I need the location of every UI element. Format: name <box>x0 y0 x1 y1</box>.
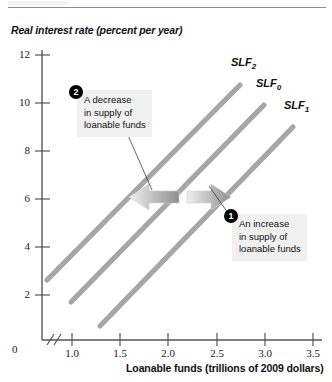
y-tick-label: 4 <box>6 240 30 252</box>
loanable-funds-figure: Real interest rate (percent per year) <box>0 0 332 382</box>
curve-label-slf2: SLF2 <box>231 56 256 71</box>
curve-label-slf1: SLF1 <box>284 99 309 114</box>
x-tick-label: 3.0 <box>245 347 285 359</box>
callout-increase-line3: loanable funds <box>239 243 301 256</box>
y-tick-label: 6 <box>6 192 30 204</box>
x-tick-label: 1.0 <box>52 347 92 359</box>
x-axis-title: Loanable funds (trillions of 2009 dollar… <box>126 362 324 374</box>
callout-decrease-badge: 2 <box>69 85 83 99</box>
x-tick-label: 2.0 <box>148 347 188 359</box>
chart-plot-area <box>0 0 332 382</box>
callout-decrease-line2: in supply of <box>84 107 146 120</box>
callout-decrease-line3: loanable funds <box>84 119 146 132</box>
callout-increase-line1: An increase <box>239 218 301 231</box>
y-tick-label: 10 <box>6 96 30 108</box>
x-tick-label: 1.5 <box>100 347 140 359</box>
curve-label-slf0: SLF0 <box>256 77 281 92</box>
leader-line-decrease <box>127 133 152 190</box>
callout-decrease: A decrease in supply of loanable funds <box>77 90 152 137</box>
callout-decrease-line1: A decrease <box>84 94 146 107</box>
y-tick-label: 12 <box>6 48 30 60</box>
y-tick-label: 8 <box>6 144 30 156</box>
curve-label-slf2-base: SLF <box>231 56 252 68</box>
curve-label-slf1-sub: 1 <box>305 105 309 114</box>
x-tick-label: 3.5 <box>293 347 332 359</box>
curve-label-slf2-sub: 2 <box>252 62 256 71</box>
origin-label: 0 <box>12 343 18 355</box>
callout-increase: An increase in supply of loanable funds <box>232 214 307 261</box>
increase-arrow-icon <box>187 184 231 210</box>
curve-label-slf0-sub: 0 <box>277 83 281 92</box>
curve-label-slf1-base: SLF <box>284 99 305 111</box>
x-tick-label: 2.5 <box>197 347 237 359</box>
y-tick-label: 2 <box>6 288 30 300</box>
curve-label-slf0-base: SLF <box>256 77 277 89</box>
callout-increase-badge: 1 <box>224 209 238 223</box>
callout-increase-line2: in supply of <box>239 231 301 244</box>
